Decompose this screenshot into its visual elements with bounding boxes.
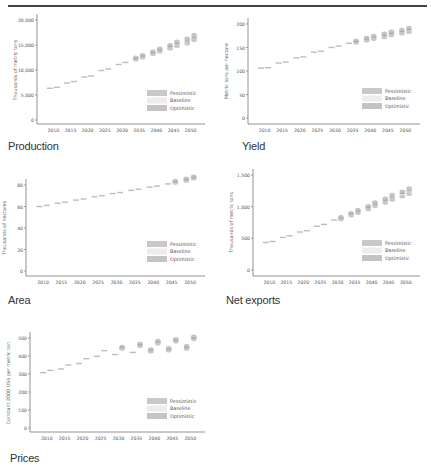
pessimistic-marker	[406, 192, 412, 196]
y-tick-label: 1,000	[237, 205, 250, 210]
legend-label-pessimistic: Pessimistic	[385, 241, 412, 246]
y-tick-label: 0	[24, 426, 27, 431]
legend-swatch-optimistic	[147, 413, 167, 419]
baseline-marker	[407, 190, 412, 191]
y-tick-label: 500	[18, 336, 27, 341]
optimistic-marker	[406, 186, 412, 190]
x-tick-label: 2020	[298, 280, 310, 285]
baseline-marker	[148, 350, 153, 351]
baseline-marker	[120, 347, 125, 348]
x-tick-label: 2015	[59, 436, 71, 441]
data-marker	[94, 356, 100, 357]
baseline-marker	[166, 349, 171, 350]
legend-swatch-baseline	[147, 406, 167, 412]
y-tick-label: 300	[18, 372, 27, 377]
baseline-marker	[338, 217, 343, 218]
baseline-marker	[366, 207, 371, 208]
baseline-marker	[400, 193, 405, 194]
x-tick-label: 2025	[315, 280, 327, 285]
data-marker	[304, 230, 310, 231]
baseline-marker	[390, 197, 395, 198]
baseline-marker	[173, 340, 178, 341]
baseline-marker	[155, 341, 160, 342]
x-tick-label: 2010	[263, 280, 275, 285]
baseline-marker	[349, 213, 354, 214]
legend-label-optimistic: Optimistic	[170, 414, 195, 419]
baseline-marker	[191, 337, 196, 338]
data-marker	[331, 219, 337, 220]
y-axis-label: Thousands of metric tons	[229, 192, 234, 254]
data-marker	[65, 364, 71, 365]
data-marker	[101, 350, 107, 351]
y-tick-label: 400	[18, 354, 27, 359]
chart-prices: 0100200300400500201020152020202520302035…	[0, 0, 215, 468]
prices-plot: 0100200300400500201020152020202520302035…	[0, 0, 215, 468]
legend-label-pessimistic: Pessimistic	[170, 399, 197, 404]
data-marker	[297, 231, 303, 232]
legend-label-baseline: Baseline	[385, 248, 405, 253]
x-tick-label: 2010	[41, 436, 53, 441]
data-marker	[47, 370, 53, 371]
data-marker	[270, 241, 276, 242]
x-tick-label: 2030	[332, 280, 344, 285]
y-tick-label: 100	[18, 408, 27, 413]
legend-swatch-pessimistic	[147, 398, 167, 404]
baseline-marker	[373, 204, 378, 205]
x-tick-label: 2035	[131, 436, 143, 441]
data-marker	[76, 363, 82, 364]
y-axis-label: Constant 2000 US$ per metric ton	[6, 342, 11, 424]
pessimistic-marker	[389, 198, 395, 202]
x-tick-label: 2040	[149, 436, 161, 441]
data-marker	[58, 368, 64, 369]
pessimistic-marker	[382, 201, 388, 205]
optimistic-marker	[389, 193, 395, 197]
data-marker	[314, 226, 320, 227]
chart-title-net-exports: Net exports	[226, 294, 280, 306]
x-tick-label: 2040	[366, 280, 378, 285]
optimistic-marker	[348, 211, 354, 215]
pessimistic-marker	[400, 195, 406, 199]
x-tick-label: 2020	[77, 436, 89, 441]
x-tick-label: 2050	[184, 436, 196, 441]
x-tick-label: 2015	[280, 280, 292, 285]
baseline-marker	[184, 347, 189, 348]
optimistic-marker	[119, 345, 125, 349]
baseline-marker	[355, 211, 360, 212]
data-marker	[130, 352, 136, 353]
legend-swatch-optimistic	[362, 255, 382, 261]
x-tick-label: 2045	[166, 436, 178, 441]
baseline-marker	[383, 200, 388, 201]
chart-title-prices: Prices	[10, 452, 39, 464]
data-marker	[83, 358, 89, 359]
y-tick-label: 200	[18, 390, 27, 395]
legend-label-baseline: Baseline	[170, 406, 190, 411]
data-marker	[321, 224, 327, 225]
y-tick-label: 500	[241, 236, 250, 241]
data-marker	[112, 354, 118, 355]
legend-swatch-pessimistic	[362, 240, 382, 246]
data-marker	[287, 235, 293, 236]
y-tick-label: 0	[247, 268, 250, 273]
x-tick-label: 2025	[95, 436, 107, 441]
legend-label-optimistic: Optimistic	[385, 256, 410, 261]
legend-swatch-baseline	[362, 248, 382, 254]
x-tick-label: 2030	[113, 436, 125, 441]
x-tick-label: 2035	[349, 280, 361, 285]
data-marker	[263, 242, 269, 243]
data-marker	[40, 372, 46, 373]
x-tick-label: 2050	[400, 280, 412, 285]
y-tick-label: 1,500	[237, 173, 250, 178]
data-marker	[280, 237, 286, 238]
x-tick-label: 2045	[383, 280, 395, 285]
baseline-marker	[138, 344, 143, 345]
